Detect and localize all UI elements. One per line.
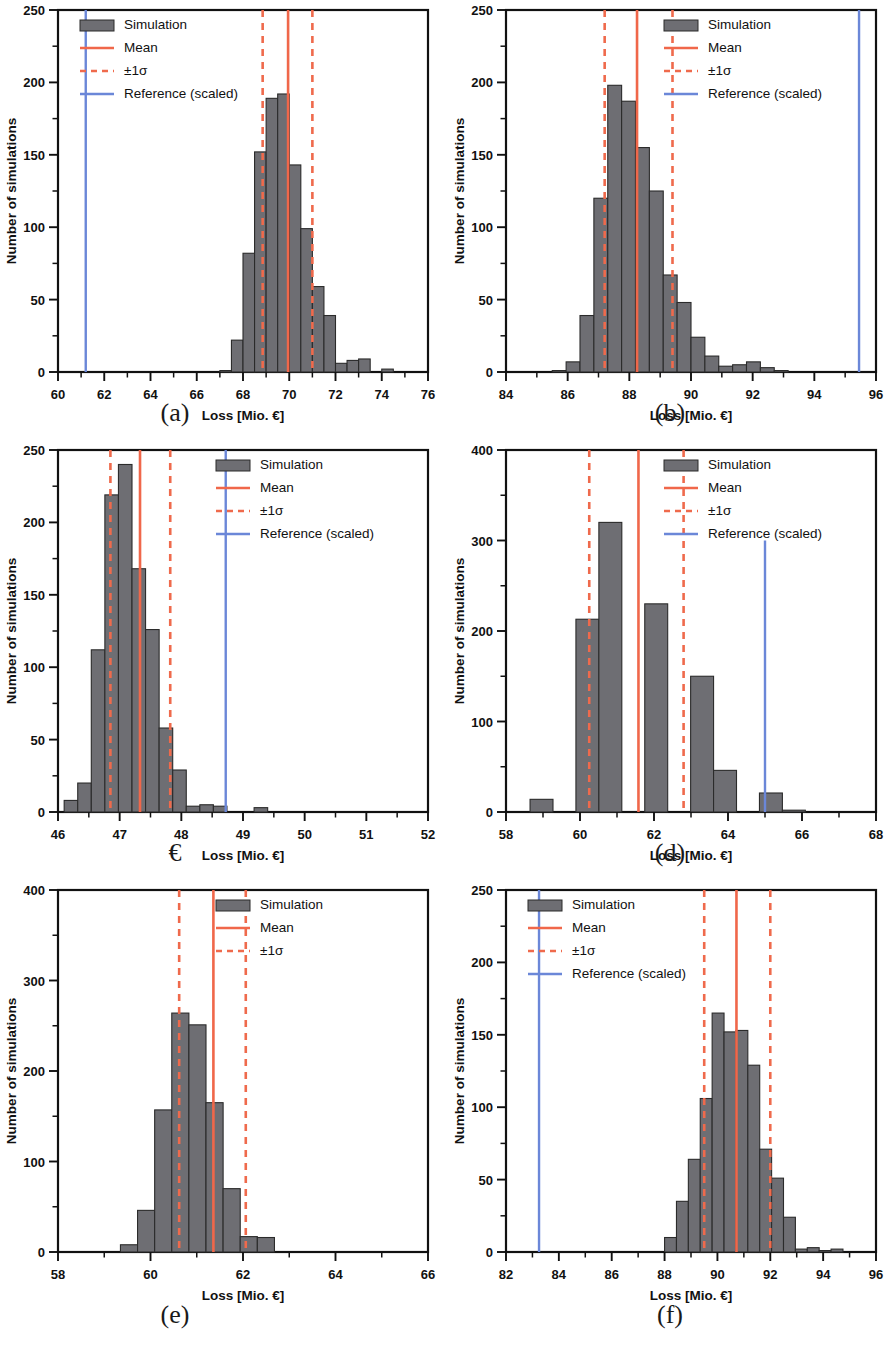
svg-text:46: 46 — [51, 827, 65, 842]
histogram-bar — [257, 1238, 274, 1252]
histogram-bar — [91, 650, 105, 812]
y-axis-f: 050100150200250 — [471, 883, 506, 1260]
svg-text:60: 60 — [51, 387, 65, 402]
legend-swatch-simulation — [664, 460, 698, 471]
histogram-bar — [347, 360, 359, 372]
svg-text:150: 150 — [471, 1028, 493, 1043]
svg-text:200: 200 — [471, 624, 493, 639]
legend-label: ±1σ — [124, 63, 148, 78]
svg-text:86: 86 — [560, 387, 574, 402]
svg-text:90: 90 — [710, 1267, 724, 1282]
histogram-bar — [580, 316, 594, 372]
svg-text:96: 96 — [869, 387, 883, 402]
histogram-bar — [118, 464, 132, 812]
svg-text:64: 64 — [328, 1267, 343, 1282]
svg-text:100: 100 — [23, 220, 45, 235]
histogram-bar — [719, 366, 733, 372]
svg-text:0: 0 — [486, 1245, 493, 1260]
histogram-bar — [649, 191, 663, 372]
legend-c: SimulationMean±1σReference (scaled) — [216, 457, 374, 541]
panel-a: 606264666870727476050100150200250Loss [M… — [0, 0, 446, 430]
histogram-bar — [200, 805, 214, 812]
svg-text:92: 92 — [745, 387, 759, 402]
histogram-bar — [665, 1238, 677, 1252]
svg-text:250: 250 — [471, 3, 493, 18]
svg-text:58: 58 — [51, 1267, 65, 1282]
histogram-bar — [733, 365, 747, 372]
svg-text:200: 200 — [23, 75, 45, 90]
legend-label: ±1σ — [260, 503, 284, 518]
svg-text:50: 50 — [479, 293, 493, 308]
svg-text:100: 100 — [471, 1100, 493, 1115]
svg-text:300: 300 — [23, 974, 45, 989]
svg-text:84: 84 — [552, 1267, 567, 1282]
legend-label: ±1σ — [708, 63, 732, 78]
histogram-bar — [324, 316, 336, 372]
histogram-bar — [64, 800, 78, 812]
panel-d: 5860626466680100200300400Loss [Mio. €]Nu… — [448, 440, 894, 870]
histogram-bar — [255, 152, 267, 372]
svg-text:50: 50 — [31, 733, 45, 748]
svg-text:70: 70 — [282, 387, 296, 402]
y-axis-label: Number of simulations — [452, 558, 467, 704]
x-axis-c: 46474849505152 — [51, 812, 435, 842]
svg-text:400: 400 — [23, 883, 45, 898]
svg-text:60: 60 — [573, 827, 587, 842]
svg-text:150: 150 — [23, 148, 45, 163]
histogram-plot-c: 46474849505152050100150200250Loss [Mio. … — [0, 440, 446, 870]
histogram-bar — [599, 522, 622, 812]
legend-swatch-simulation — [664, 20, 698, 31]
legend-label: Mean — [572, 920, 606, 935]
svg-text:150: 150 — [471, 148, 493, 163]
histogram-bar — [700, 1099, 712, 1252]
svg-text:66: 66 — [421, 1267, 435, 1282]
bars-group-a — [220, 94, 393, 372]
caption-e: (e) — [115, 1300, 235, 1330]
histogram-bar — [173, 770, 187, 812]
histogram-bar — [240, 1237, 257, 1252]
histogram-bar — [220, 371, 232, 372]
legend-label: Simulation — [708, 17, 771, 32]
histogram-bar — [645, 604, 668, 812]
histogram-bar — [223, 1189, 240, 1252]
histogram-plot-a: 606264666870727476050100150200250Loss [M… — [0, 0, 446, 430]
y-axis-b: 050100150200250 — [471, 3, 506, 380]
bars-group-e — [120, 1013, 274, 1252]
caption-f: (f) — [610, 1300, 730, 1330]
legend-b: SimulationMean±1σReference (scaled) — [664, 17, 822, 101]
svg-text:68: 68 — [236, 387, 250, 402]
histogram-bar — [759, 793, 782, 812]
histogram-plot-f: 8284868890929496050100150200250Loss [Mio… — [448, 880, 894, 1310]
legend-label: Mean — [708, 480, 742, 495]
histogram-plot-e: 58606264660100200300400Loss [Mio. €]Numb… — [0, 880, 446, 1310]
svg-text:250: 250 — [23, 3, 45, 18]
histogram-bar — [312, 287, 324, 372]
histogram-bar — [576, 619, 599, 812]
y-axis-c: 050100150200250 — [23, 443, 58, 820]
histogram-bar — [608, 85, 622, 372]
panel-f: 8284868890929496050100150200250Loss [Mio… — [448, 880, 894, 1310]
svg-text:50: 50 — [479, 1173, 493, 1188]
caption-d: (d) — [610, 838, 730, 868]
legend-label: ±1σ — [572, 943, 596, 958]
y-axis-label: Number of simulations — [4, 558, 19, 704]
svg-text:51: 51 — [359, 827, 373, 842]
svg-text:200: 200 — [471, 955, 493, 970]
x-axis-e: 5860626466 — [51, 1252, 435, 1282]
histogram-bar — [714, 770, 737, 812]
svg-text:0: 0 — [38, 1245, 45, 1260]
legend-e: SimulationMean±1σ — [216, 897, 323, 958]
histogram-bar — [819, 1251, 831, 1252]
caption-a: (a) — [115, 398, 235, 428]
svg-text:200: 200 — [471, 75, 493, 90]
histogram-bar — [552, 371, 566, 372]
legend-label: Mean — [708, 40, 742, 55]
y-axis-a: 050100150200250 — [23, 3, 58, 380]
histogram-bar — [784, 1217, 796, 1252]
histogram-bar — [382, 369, 394, 372]
legend-label: Reference (scaled) — [260, 526, 374, 541]
legend-label: Reference (scaled) — [708, 86, 822, 101]
y-axis-label: Number of simulations — [452, 118, 467, 264]
caption-b: (b) — [610, 398, 730, 428]
svg-text:52: 52 — [421, 827, 435, 842]
